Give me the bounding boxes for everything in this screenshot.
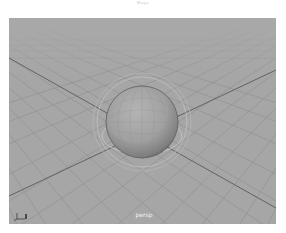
camera-label: persp xyxy=(129,211,159,219)
perspective-viewport[interactable]: persp xyxy=(9,18,276,224)
axis-gizmo-icon xyxy=(13,211,31,221)
viewport-scene[interactable] xyxy=(9,18,276,224)
window-title: Maya xyxy=(120,0,166,6)
sphere-object[interactable] xyxy=(106,86,178,158)
maya-window: Maya xyxy=(0,0,286,233)
